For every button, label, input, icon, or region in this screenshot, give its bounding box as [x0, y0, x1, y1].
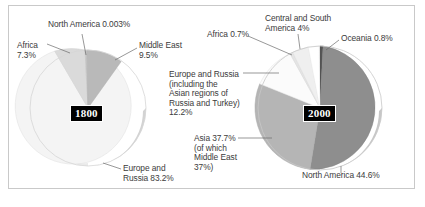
label-2000-asia-line1: Asia 37.7% — [194, 133, 236, 143]
label-2000-central-south-america-line2: America 4% — [265, 23, 309, 33]
label-1800-middle-east-line1: Middle East — [139, 40, 182, 50]
label-2000-central-south-america-line1: Central and South — [265, 13, 331, 23]
label-1800-europe-russia-line2: Russia 83.2% — [123, 173, 174, 183]
year-badge-2000: 2000 — [303, 105, 336, 122]
pie-2000-leader-africa — [248, 36, 292, 55]
label-2000-europe-russia-line5: 12.2% — [169, 107, 192, 117]
label-2000-africa: Africa 0.7% — [207, 30, 249, 40]
label-2000-north-america: North America 44.6% — [302, 171, 380, 181]
pie-1800-leader-europe-russia — [103, 163, 121, 169]
label-1800-africa-line2: 7.3% — [17, 50, 36, 60]
label-2000-asia: Asia 37.7%(of whichMiddle East37%) — [194, 134, 237, 172]
label-1800-africa: Africa7.3% — [17, 41, 38, 60]
year-badge-1800: 1800 — [70, 105, 103, 122]
label-2000-asia-line4: 37%) — [194, 162, 213, 172]
label-2000-asia-line3: Middle East — [194, 152, 237, 162]
label-2000-europe-russia-line1: Europe and Russia — [169, 69, 239, 79]
label-1800-europe-russia: Europe andRussia 83.2% — [123, 164, 174, 183]
pie-chart-figure: North America 0.003% Africa7.3% Middle E… — [0, 0, 425, 207]
label-2000-europe-russia-line2: (including the — [169, 79, 218, 89]
label-2000-oceania: Oceania 0.8% — [341, 34, 393, 44]
label-2000-europe-russia-line4: Russia and Turkey) — [169, 98, 240, 108]
label-2000-central-south-america: Central and SouthAmerica 4% — [265, 14, 331, 33]
label-1800-europe-russia-line1: Europe and — [123, 163, 166, 173]
pie-2000-leader-central-south-america — [298, 34, 300, 49]
label-1800-north-america: North America 0.003% — [48, 20, 130, 30]
label-1800-africa-line1: Africa — [17, 40, 38, 50]
label-1800-middle-east: Middle East9.5% — [139, 41, 182, 60]
label-2000-europe-russia-line3: Asian regions of — [169, 88, 228, 98]
pie-2000 — [238, 34, 382, 173]
pie-1800-leader-middle-east — [115, 48, 137, 60]
label-1800-middle-east-line2: 9.5% — [139, 50, 158, 60]
label-2000-asia-line2: (of which — [194, 143, 227, 153]
label-2000-europe-russia: Europe and Russia(including theAsian reg… — [169, 70, 240, 118]
